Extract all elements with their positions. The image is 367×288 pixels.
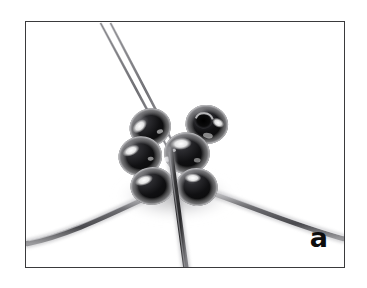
photo-frame: a: [25, 21, 345, 268]
panel-label: a: [310, 224, 328, 251]
bead-highlight: [184, 173, 201, 182]
figure-root: a: [0, 0, 367, 288]
bead-photograph: [26, 22, 344, 267]
